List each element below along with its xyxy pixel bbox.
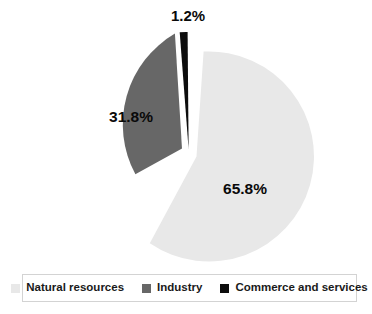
legend-item-commerce[interactable]: Commerce and services <box>220 282 367 294</box>
legend-item-industry[interactable]: Industry <box>142 282 202 294</box>
legend-label-industry: Industry <box>157 282 202 294</box>
legend-swatch-industry <box>142 284 151 293</box>
slice-label-natural-resources: 65.8% <box>223 180 267 197</box>
chart-legend: Natural resources Industry Commerce and … <box>22 274 357 302</box>
legend-label-commerce: Commerce and services <box>235 282 367 294</box>
pie-chart: 65.8% 31.8% 1.2% Natural resources Indus… <box>0 0 372 314</box>
slice-label-industry: 31.8% <box>109 108 153 125</box>
slice-label-commerce: 1.2% <box>171 7 205 24</box>
pie-slice-industry[interactable] <box>123 34 182 175</box>
legend-label-natural-resources: Natural resources <box>26 282 124 294</box>
legend-item-natural-resources[interactable]: Natural resources <box>11 282 124 294</box>
pie-chart-canvas: 65.8% 31.8% 1.2% <box>0 0 372 314</box>
legend-swatch-natural-resources <box>11 284 20 293</box>
pie-slice-commerce[interactable] <box>180 32 189 149</box>
legend-swatch-commerce <box>220 284 229 293</box>
